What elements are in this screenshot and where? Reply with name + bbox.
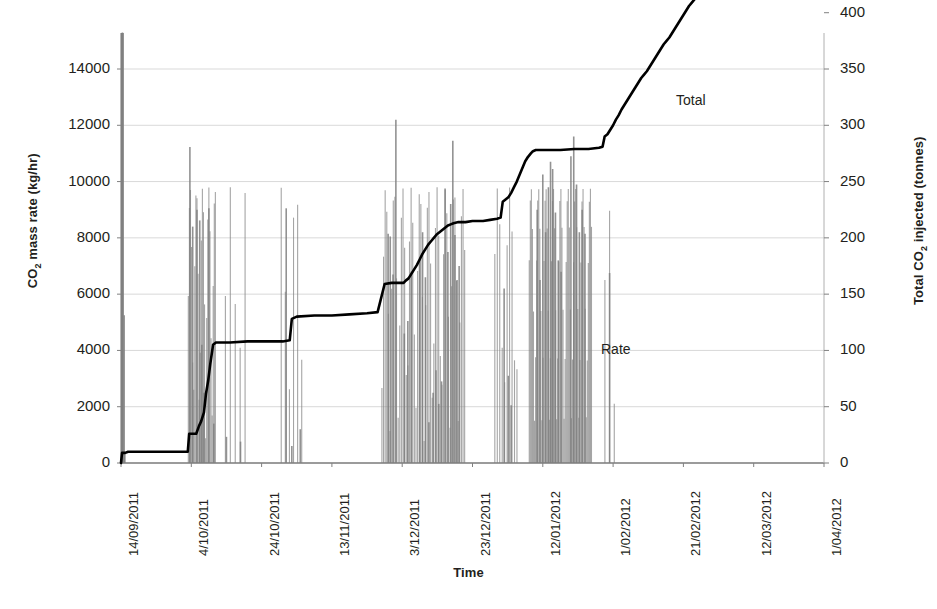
gridlines	[121, 69, 824, 463]
chart-root: CO2 mass rate (kg/hr) Total CO2 injected…	[0, 0, 937, 609]
chart-canvas	[0, 0, 937, 609]
rate-bars	[122, 32, 614, 463]
annotation-total: Total	[676, 92, 706, 108]
annotation-rate: Rate	[601, 341, 631, 357]
axes	[117, 0, 829, 467]
plot-area	[119, 33, 826, 463]
